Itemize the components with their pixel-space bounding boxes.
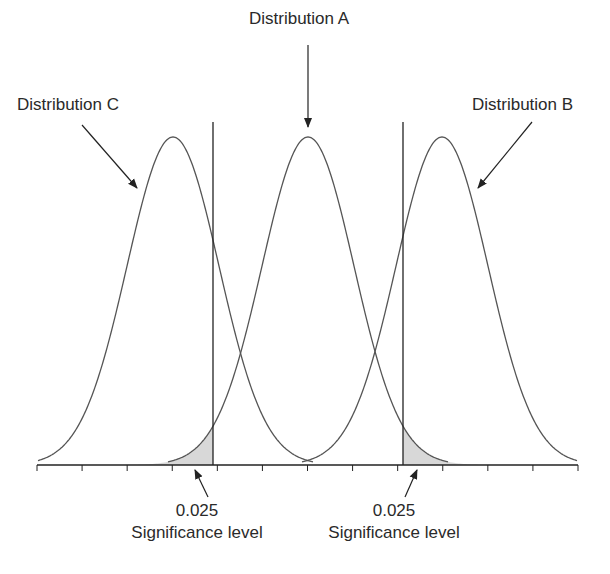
label-distribution-b: Distribution B — [472, 95, 573, 115]
arrow-significance-left — [195, 470, 208, 497]
arrow-distribution-b — [478, 122, 532, 188]
label-distribution-c: Distribution C — [17, 95, 119, 115]
arrow-distribution-c — [82, 125, 137, 188]
significance-annotation-right: 0.025 Significance level — [314, 500, 474, 544]
significance-caption: Significance level — [117, 522, 277, 544]
distribution-diagram — [0, 0, 610, 574]
curve-distribution-b — [302, 137, 577, 462]
curve-distribution-a — [168, 137, 448, 462]
significance-caption: Significance level — [314, 522, 474, 544]
label-distribution-a: Distribution A — [249, 9, 349, 29]
significance-value: 0.025 — [117, 500, 277, 522]
curve-distribution-c — [38, 137, 313, 462]
arrow-significance-right — [405, 470, 417, 497]
significance-value: 0.025 — [314, 500, 474, 522]
significance-annotation-left: 0.025 Significance level — [117, 500, 277, 544]
